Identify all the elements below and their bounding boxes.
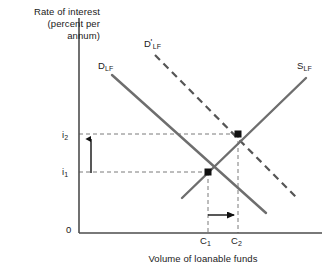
y-tick-label-i2: i2	[62, 129, 68, 142]
equilibrium-points	[205, 131, 242, 176]
y-tick-label-i1: i1	[62, 166, 68, 179]
demand-shifted-label-sub: LF	[153, 43, 161, 50]
y-tick-i1-sub: 1	[64, 171, 68, 178]
demand-original-label: DLF	[98, 60, 113, 73]
x-axis-title: Volume of loanable funds	[118, 253, 288, 265]
loanable-funds-diagram: Rate of interest (percent per annum) Vol…	[0, 0, 333, 268]
curves	[112, 55, 306, 213]
x-tick-label-c1: C1	[200, 235, 211, 248]
origin-label: 0	[66, 224, 71, 236]
supply-label-sub: LF	[303, 65, 311, 72]
x-tick-label-c2: C2	[231, 235, 242, 248]
demand-original-label-sub: LF	[105, 65, 113, 72]
shift-arrows	[91, 139, 234, 215]
axes	[79, 18, 322, 233]
y-axis-title: Rate of interest (percent per annum)	[4, 6, 100, 41]
supply-curve	[182, 78, 306, 198]
supply-label: SLF	[297, 60, 312, 73]
y-tick-i2-sub: 2	[64, 134, 68, 141]
x-tick-c2-base: C	[231, 235, 238, 246]
x-tick-c1-base: C	[200, 235, 207, 246]
demand-original-label-base: D	[98, 60, 105, 71]
guide-lines	[79, 134, 238, 233]
x-tick-c2-sub: 2	[238, 240, 242, 247]
equilibrium-1-marker	[205, 169, 212, 176]
demand-shifted-label: D'LF	[144, 38, 161, 51]
x-tick-c1-sub: 1	[207, 240, 211, 247]
equilibrium-2-marker	[235, 131, 242, 138]
